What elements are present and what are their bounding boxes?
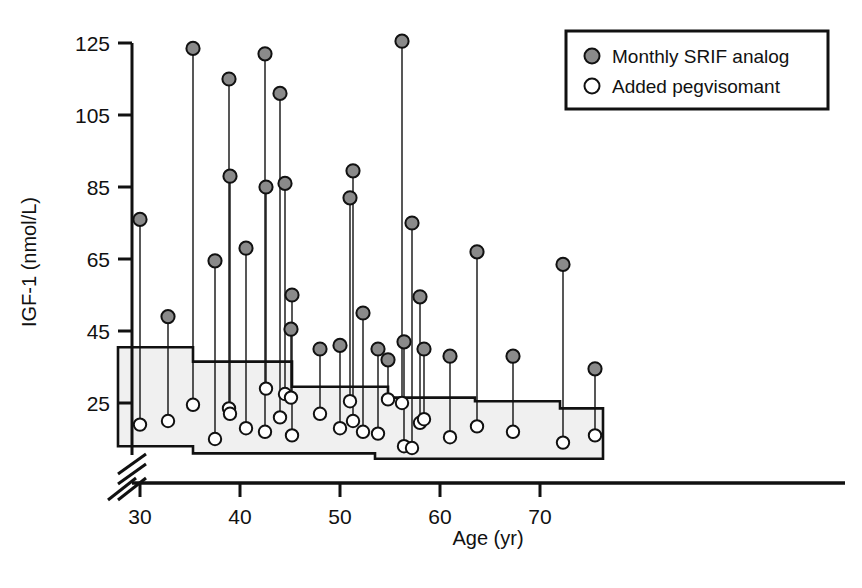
open-circle-marker bbox=[286, 429, 298, 441]
igf1-age-figure: 25456585105125 3040506070 Age (yr) IGF-1… bbox=[0, 0, 862, 588]
chart-canvas: 25456585105125 3040506070 Age (yr) IGF-1… bbox=[0, 0, 862, 588]
filled-circle-marker bbox=[278, 177, 291, 190]
filled-circle-marker bbox=[413, 290, 426, 303]
filled-circle-marker bbox=[395, 35, 408, 48]
filled-circle-marker bbox=[588, 362, 601, 375]
y-tick-label: 105 bbox=[75, 104, 110, 127]
legend-label-pegvisomant: Added pegvisomant bbox=[612, 76, 781, 97]
open-circle-marker bbox=[507, 426, 519, 438]
open-circle-marker bbox=[260, 382, 272, 394]
x-axis-title: Age (yr) bbox=[452, 527, 523, 549]
filled-circle-marker bbox=[356, 306, 369, 319]
filled-circle-marker bbox=[397, 335, 410, 348]
open-circle-marker bbox=[372, 427, 384, 439]
open-circle-marker bbox=[240, 422, 252, 434]
filled-circle-marker bbox=[556, 258, 569, 271]
y-tick-label: 85 bbox=[87, 176, 110, 199]
filled-circle-marker bbox=[273, 87, 286, 100]
open-circle-marker bbox=[162, 415, 174, 427]
x-tick-label: 30 bbox=[128, 505, 151, 528]
legend-filled-circle-icon bbox=[585, 49, 600, 64]
x-tick-label: 50 bbox=[328, 505, 351, 528]
y-tick-label: 45 bbox=[87, 320, 110, 343]
open-circle-marker bbox=[187, 399, 199, 411]
filled-circle-marker bbox=[285, 288, 298, 301]
open-circle-marker bbox=[224, 408, 236, 420]
filled-circle-marker bbox=[371, 342, 384, 355]
filled-circle-marker bbox=[381, 353, 394, 366]
x-tick-label: 40 bbox=[228, 505, 251, 528]
filled-circle-marker bbox=[343, 191, 356, 204]
open-circle-marker bbox=[444, 431, 456, 443]
filled-circle-marker bbox=[284, 323, 297, 336]
open-circle-marker bbox=[274, 411, 286, 423]
legend: Monthly SRIF analog Added pegvisomant bbox=[566, 31, 828, 109]
open-circle-marker bbox=[285, 391, 297, 403]
filled-circle-marker bbox=[133, 213, 146, 226]
filled-circle-marker bbox=[186, 42, 199, 55]
open-circle-marker bbox=[134, 418, 146, 430]
y-tick-label: 65 bbox=[87, 248, 110, 271]
open-circle-marker bbox=[344, 395, 356, 407]
filled-circle-marker bbox=[405, 216, 418, 229]
open-circle-marker bbox=[589, 429, 601, 441]
open-circle-marker bbox=[406, 442, 418, 454]
open-circle-marker bbox=[334, 422, 346, 434]
y-tick-label: 25 bbox=[87, 392, 110, 415]
open-circle-marker bbox=[418, 413, 430, 425]
filled-circle-marker bbox=[208, 254, 221, 267]
filled-circle-marker bbox=[259, 180, 272, 193]
open-circle-marker bbox=[259, 426, 271, 438]
filled-circle-marker bbox=[443, 350, 456, 363]
open-circle-marker bbox=[357, 426, 369, 438]
filled-circle-marker bbox=[161, 310, 174, 323]
filled-circle-marker bbox=[506, 350, 519, 363]
filled-circle-marker bbox=[239, 242, 252, 255]
y-tick-label: 125 bbox=[75, 32, 110, 55]
x-tick-label: 60 bbox=[428, 505, 451, 528]
open-circle-marker bbox=[347, 415, 359, 427]
open-circle-marker bbox=[382, 393, 394, 405]
x-tick-label: 70 bbox=[528, 505, 551, 528]
filled-circle-marker bbox=[313, 342, 326, 355]
filled-circle-marker bbox=[470, 245, 483, 258]
filled-circle-marker bbox=[258, 47, 271, 60]
open-circle-marker bbox=[557, 436, 569, 448]
filled-circle-marker bbox=[346, 164, 359, 177]
open-circle-marker bbox=[471, 420, 483, 432]
filled-circle-marker bbox=[417, 342, 430, 355]
filled-circle-marker bbox=[333, 339, 346, 352]
legend-box bbox=[566, 31, 828, 109]
open-circle-marker bbox=[209, 433, 221, 445]
filled-circle-marker bbox=[223, 170, 236, 183]
open-circle-marker bbox=[314, 408, 326, 420]
legend-label-srif: Monthly SRIF analog bbox=[612, 46, 789, 67]
legend-open-circle-icon bbox=[585, 79, 600, 94]
open-circle-marker bbox=[396, 397, 408, 409]
y-axis-title: IGF-1 (nmol/L) bbox=[18, 197, 40, 327]
filled-circle-marker bbox=[222, 72, 235, 85]
